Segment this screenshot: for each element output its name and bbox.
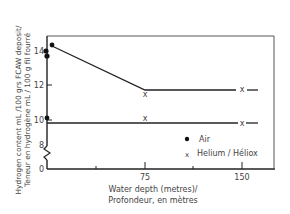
legend-air-label: Air (199, 135, 211, 144)
legend-air-marker (185, 137, 189, 141)
x-tick-labels: 75 150 (140, 173, 250, 182)
y-label-line-1: Hydrogen content mL /100 grs FCAW deposi… (14, 25, 23, 194)
x-tick-150: 150 (234, 173, 249, 182)
x-axis-label: Water depth (metres)/ Profondeur, en mèt… (108, 185, 198, 205)
axis-break-icon (44, 146, 50, 160)
x-label-line-2: Profondeur, en mètres (108, 195, 198, 205)
helium-points: x x x x (143, 85, 245, 128)
y-tick-8: 8 (39, 141, 44, 150)
y-tick-12: 12 (34, 81, 44, 90)
y-label-line-2: Teneur en hydrogène mL / 100 g fil fourr… (23, 33, 32, 188)
svg-text:x: x (143, 114, 148, 123)
x-label-line-1: Water depth (metres)/ (108, 185, 197, 194)
svg-text:x: x (240, 119, 245, 128)
svg-text:x: x (240, 85, 245, 94)
y-tick-labels: 14 12 10 8 0 (34, 47, 44, 174)
legend-helium-marker: x (185, 151, 189, 159)
y-axis-label: Hydrogen content mL /100 grs FCAW deposi… (14, 25, 32, 194)
legend-helium-label: Helium / Héliox (197, 148, 258, 158)
svg-text:x: x (143, 90, 148, 99)
y-ticks (47, 85, 52, 120)
y-tick-14: 14 (34, 47, 44, 56)
air-points (43, 43, 54, 121)
upper-trend-line (52, 46, 236, 90)
chart: 14 12 10 8 0 75 150 x x x x Air x Helium (0, 0, 290, 214)
x-tick-75: 75 (140, 173, 150, 182)
y-tick-0: 0 (39, 165, 44, 174)
legend: Air x Helium / Héliox (185, 135, 258, 159)
x-ticks (96, 162, 242, 169)
y-tick-10: 10 (34, 116, 44, 125)
